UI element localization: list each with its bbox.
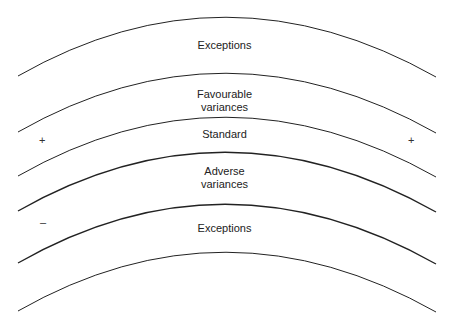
band-label-line2: variances (0, 101, 449, 114)
plus-sign-left: + (39, 134, 45, 146)
plus-sign-right: + (408, 134, 414, 146)
band-adverse-variances: Adverse variances (0, 165, 449, 191)
minus-sign-left: – (40, 216, 46, 228)
band-favourable-variances: Favourable variances (0, 88, 449, 114)
band-label: Standard (0, 128, 449, 141)
band-label: Exceptions (0, 222, 449, 235)
band-exceptions-top: Exceptions (0, 39, 449, 52)
band-exceptions-bottom: Exceptions (0, 222, 449, 235)
variance-bands-diagram: Exceptions Favourable variances Standard… (0, 0, 449, 324)
arc-6 (18, 252, 436, 312)
band-label-line2: variances (0, 178, 449, 191)
band-standard: Standard (0, 128, 449, 141)
band-label: Favourable (0, 88, 449, 101)
band-label: Adverse (0, 165, 449, 178)
band-label: Exceptions (0, 39, 449, 52)
